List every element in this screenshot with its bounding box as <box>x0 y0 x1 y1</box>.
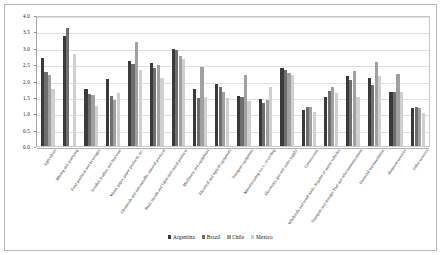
chart-legend: ArgentinaBrazilChileMexico <box>0 234 441 240</box>
bar-group <box>342 17 364 146</box>
y-axis-tick-mark <box>34 114 36 115</box>
bar-group <box>37 17 59 146</box>
y-axis-tick-label: 1.0 <box>4 111 30 117</box>
y-axis-tick-label: 3.0 <box>4 46 30 52</box>
bar <box>182 59 185 146</box>
bar <box>356 97 359 146</box>
y-axis-tick-mark <box>34 65 36 66</box>
legend-swatch-icon <box>251 235 254 238</box>
bar-group <box>386 17 408 146</box>
bar <box>247 101 250 146</box>
bar-group <box>146 17 168 146</box>
y-axis-tick-label: 3.5 <box>4 29 30 35</box>
legend-item[interactable]: Mexico <box>251 234 273 240</box>
bar-group <box>168 17 190 146</box>
y-axis-tick-label: 4.0 <box>4 13 30 19</box>
bar <box>269 87 272 146</box>
bar-group <box>364 17 386 146</box>
bar <box>422 113 425 146</box>
bar-group <box>81 17 103 146</box>
y-axis-tick-mark <box>34 147 36 148</box>
bar-group <box>320 17 342 146</box>
bar <box>378 76 381 146</box>
bar-group <box>124 17 146 146</box>
x-axis-category-label: Transport equipment <box>230 148 254 180</box>
legend-label: Chile <box>232 234 244 240</box>
bar <box>73 54 76 146</box>
bar <box>95 106 98 146</box>
x-axis-category-label: Financial intermediation <box>358 148 385 185</box>
y-axis-tick-label: 2.5 <box>4 62 30 68</box>
x-axis-category-label: Transport and storage; Post and telecomm… <box>310 148 363 224</box>
bar-group <box>233 17 255 146</box>
x-axis-category-label: Construction <box>303 148 319 169</box>
legend-swatch-icon <box>227 235 230 238</box>
y-axis-tick-label: 0.5 <box>4 128 30 134</box>
bar <box>291 75 294 146</box>
x-axis-category-label: Other services <box>411 148 429 171</box>
bar-group <box>102 17 124 146</box>
x-axis-category-label: Business services <box>386 148 407 175</box>
y-axis-tick-label: 2.0 <box>4 79 30 85</box>
bar <box>313 112 316 146</box>
y-axis-tick-mark <box>34 32 36 33</box>
bar-group <box>298 17 320 146</box>
bar-group <box>277 17 299 146</box>
legend-item[interactable]: Argentina <box>168 234 195 240</box>
legend-item[interactable]: Brazil <box>202 234 220 240</box>
bar-chart: 0.00.51.01.52.02.53.03.54.0 AgricultureM… <box>0 0 441 255</box>
y-axis-tick-mark <box>34 131 36 132</box>
bar <box>400 92 403 146</box>
x-axis-category-label: Mining and quarrying <box>54 148 79 181</box>
x-axis-category-label: Basic metals and fabricated metal produc… <box>144 148 189 211</box>
bar-group <box>255 17 277 146</box>
bar <box>335 93 338 146</box>
y-axis-tick-mark <box>34 49 36 50</box>
legend-swatch-icon <box>168 235 171 238</box>
y-axis-tick-mark <box>34 98 36 99</box>
bar <box>204 97 207 146</box>
x-axis-labels: AgricultureMining and quarryingFood prod… <box>37 148 429 228</box>
bar <box>51 89 54 146</box>
bar <box>66 28 69 146</box>
legend-label: Argentina <box>173 234 195 240</box>
legend-label: Mexico <box>256 234 273 240</box>
y-axis-tick-mark <box>34 16 36 17</box>
legend-swatch-icon <box>202 235 205 238</box>
bar <box>160 78 163 146</box>
bar-group <box>407 17 429 146</box>
bar-group <box>211 17 233 146</box>
bar-group <box>59 17 81 146</box>
bar <box>139 70 142 146</box>
bar <box>226 98 229 146</box>
x-axis-category-label: Agriculture <box>42 148 57 167</box>
x-axis-category-label: Chemicals and non-metallic mineral produ… <box>119 148 166 214</box>
bar <box>117 93 120 146</box>
bar-groups <box>37 17 429 146</box>
y-axis-tick-label: 0.0 <box>4 144 30 150</box>
legend-item[interactable]: Chile <box>227 234 244 240</box>
y-axis-tick-label: 1.5 <box>4 95 30 101</box>
y-axis-tick-mark <box>34 82 36 83</box>
legend-label: Brazil <box>207 234 221 240</box>
bar-group <box>189 17 211 146</box>
